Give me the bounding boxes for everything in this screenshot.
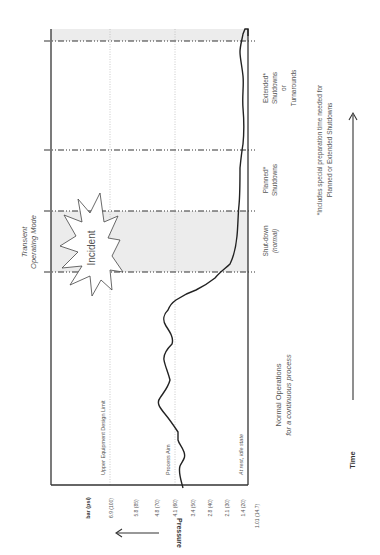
svg-text:1.01 (14.7): 1.01 (14.7): [254, 504, 260, 529]
svg-text:3.4 (50): 3.4 (50): [190, 499, 196, 517]
process-aim-label: Process Aim: [165, 444, 171, 475]
transient-mode-label-2: Operating Mode: [29, 215, 38, 269]
time-axis-label: Time: [348, 451, 357, 468]
planned-label-2: Shutdowns: [271, 163, 278, 196]
upper-design-limit-label: Upper Equipment Design Limit: [100, 400, 106, 475]
pressure-time-chart: Incident Transient Operating Mode Upper …: [0, 0, 380, 555]
svg-text:2.8 (40): 2.8 (40): [207, 499, 213, 517]
planned-label-1: Planned*: [262, 166, 269, 193]
svg-text:5.8 (85): 5.8 (85): [133, 499, 139, 517]
normal-ops-label-2: for a continuous process: [284, 354, 293, 436]
at-rest-label: At rest, idle state: [238, 434, 244, 476]
footnote-line-2: Planned or Extended Shutdowns: [326, 102, 333, 197]
y-unit-label: bar (psi): [85, 497, 91, 519]
time-axis-arrow: [349, 113, 357, 400]
extended-label-4: Turnarounds: [290, 69, 297, 106]
svg-text:2.1 (30): 2.1 (30): [224, 499, 230, 517]
extended-shutdown-shade: [51, 29, 248, 41]
svg-text:4.1 (60): 4.1 (60): [172, 499, 178, 517]
shutdown-label-1: Shut-down: [262, 225, 269, 256]
extended-label-3: or: [280, 84, 287, 91]
extended-label-2: Shutdowns: [271, 71, 278, 104]
svg-text:4.8 (70): 4.8 (70): [154, 499, 160, 517]
extended-label-1: Extended*: [262, 73, 269, 103]
transient-mode-label-1: Transient: [20, 226, 29, 258]
svg-text:6.9 (100): 6.9 (100): [108, 498, 114, 518]
normal-ops-label-1: Normal Operations: [274, 363, 283, 426]
shutdown-label-2: (normal): [271, 229, 279, 253]
incident-label: Incident: [86, 230, 97, 265]
svg-text:1.4 (20): 1.4 (20): [240, 499, 246, 517]
y-tick-labels: 6.9 (100) 5.8 (85) 4.8 (70) 4.1 (60) 3.4…: [108, 498, 260, 528]
pressure-axis-label: Pressure: [176, 518, 183, 548]
pressure-axis-arrow: [116, 529, 159, 537]
footnote-line-1: *Includes special preparation time neede…: [316, 84, 324, 215]
